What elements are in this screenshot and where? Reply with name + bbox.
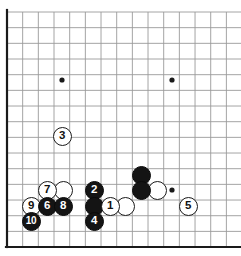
stone-black-5 <box>132 181 151 200</box>
stone-move-10-black: 10 <box>22 212 41 231</box>
stone-move-5-white: 5 <box>179 197 198 216</box>
stone-move-4-black: 4 <box>85 212 104 231</box>
stone-number-label: 5 <box>185 200 191 212</box>
stone-number-label: 1 <box>107 200 113 212</box>
stone-number-label: 4 <box>91 215 97 227</box>
stone-number-label: 3 <box>59 130 65 142</box>
go-board-diagram: 37296815104 <box>0 0 241 256</box>
stone-number-label: 9 <box>28 200 34 212</box>
stone-number-label: 6 <box>44 200 50 212</box>
stone-number-label: 10 <box>26 216 37 226</box>
stone-number-label: 2 <box>91 184 97 196</box>
stone-move-8-black: 8 <box>54 197 73 216</box>
stone-number-label: 8 <box>60 200 66 212</box>
stone-number-label: 7 <box>44 184 50 196</box>
stone-layer: 37296815104 <box>0 0 241 256</box>
stone-move-1-white: 1 <box>101 197 120 216</box>
stone-move-3-white: 3 <box>53 127 72 146</box>
